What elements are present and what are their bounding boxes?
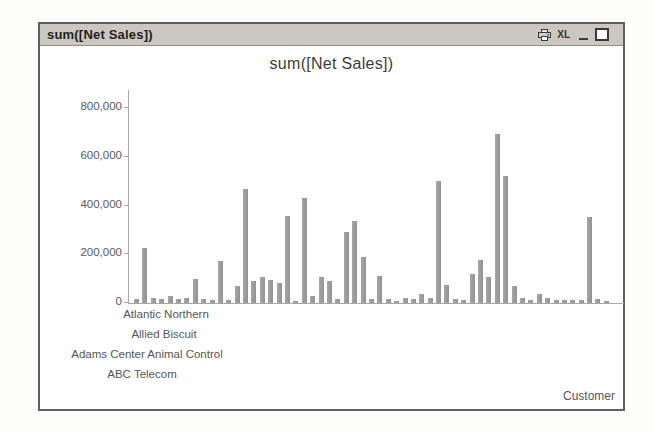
bar[interactable] <box>243 189 248 303</box>
bar[interactable] <box>461 300 466 303</box>
y-tick-label: 800,000 <box>62 100 122 112</box>
bar[interactable] <box>268 280 273 303</box>
print-icon[interactable] <box>537 28 551 42</box>
bar[interactable] <box>277 283 282 303</box>
excel-export-icon[interactable]: XL <box>556 28 571 42</box>
y-axis-line <box>128 90 129 303</box>
titlebar-icons: XL <box>537 28 609 42</box>
chart-area: sum([Net Sales]) 800,000600,000400,00020… <box>40 46 623 409</box>
bar[interactable] <box>520 298 525 303</box>
bar[interactable] <box>386 299 391 303</box>
bar[interactable] <box>436 181 441 304</box>
bar[interactable] <box>562 300 567 303</box>
bar[interactable] <box>151 298 156 303</box>
bar[interactable] <box>478 260 483 303</box>
bar[interactable] <box>319 277 324 303</box>
bar[interactable] <box>453 299 458 303</box>
bar[interactable] <box>210 300 215 303</box>
bar[interactable] <box>285 216 290 303</box>
bar[interactable] <box>486 277 491 303</box>
bar[interactable] <box>184 298 189 303</box>
bar[interactable] <box>419 294 424 303</box>
y-tick-mark <box>124 107 128 108</box>
x-tick-label-adams-center-animal-control[interactable]: Adams Center Animal Control <box>71 348 222 360</box>
bar[interactable] <box>344 232 349 303</box>
y-tick-mark <box>124 302 128 303</box>
bar[interactable] <box>528 300 533 303</box>
bar[interactable] <box>293 301 298 304</box>
x-tick-label-abc-telecom[interactable]: ABC Telecom <box>107 368 176 380</box>
bar[interactable] <box>503 176 508 303</box>
bar[interactable] <box>134 299 139 303</box>
window-title: sum([Net Sales]) <box>47 27 537 42</box>
bar[interactable] <box>142 248 147 303</box>
bar[interactable] <box>226 300 231 303</box>
bar[interactable] <box>335 299 340 303</box>
bar[interactable] <box>394 301 399 304</box>
bar[interactable] <box>159 299 164 303</box>
bar[interactable] <box>327 281 332 303</box>
bar[interactable] <box>260 277 265 303</box>
bar[interactable] <box>470 274 475 303</box>
y-tick-label: 200,000 <box>62 246 122 258</box>
y-tick-mark <box>124 205 128 206</box>
bar[interactable] <box>428 298 433 303</box>
bar[interactable] <box>176 299 181 303</box>
x-axis-line <box>128 303 624 304</box>
x-tick-label-atlantic-northern[interactable]: Atlantic Northern <box>123 308 209 320</box>
bar[interactable] <box>545 298 550 303</box>
bar[interactable] <box>352 221 357 303</box>
bar[interactable] <box>369 299 374 303</box>
y-tick-label: 400,000 <box>62 198 122 210</box>
bar[interactable] <box>302 198 307 303</box>
bars-plot <box>134 107 612 303</box>
minimize-icon[interactable] <box>576 28 590 42</box>
bar[interactable] <box>411 299 416 303</box>
y-tick-mark <box>124 253 128 254</box>
x-tick-label-allied-biscuit[interactable]: Allied Biscuit <box>131 328 196 340</box>
window-titlebar[interactable]: sum([Net Sales]) XL <box>40 24 623 46</box>
bar[interactable] <box>235 286 240 303</box>
bar[interactable] <box>403 298 408 303</box>
bar[interactable] <box>251 281 256 303</box>
bar[interactable] <box>579 300 584 303</box>
bar[interactable] <box>537 294 542 303</box>
bar[interactable] <box>595 299 600 303</box>
y-tick-label: 600,000 <box>62 149 122 161</box>
bar[interactable] <box>512 286 517 303</box>
x-axis-title: Customer <box>563 389 615 403</box>
bar[interactable] <box>570 300 575 303</box>
bar[interactable] <box>310 296 315 303</box>
bar[interactable] <box>377 276 382 303</box>
bar[interactable] <box>193 279 198 304</box>
bar[interactable] <box>587 217 592 303</box>
bar[interactable] <box>218 261 223 303</box>
chart-title: sum([Net Sales]) <box>40 55 623 73</box>
bar[interactable] <box>495 134 500 303</box>
bar[interactable] <box>361 257 366 304</box>
y-tick-label: 0 <box>62 295 122 307</box>
bar[interactable] <box>554 300 559 303</box>
bar[interactable] <box>604 301 609 303</box>
maximize-icon[interactable] <box>595 28 609 42</box>
y-tick-mark <box>124 156 128 157</box>
bar[interactable] <box>444 285 449 303</box>
bar[interactable] <box>201 299 206 303</box>
chart-window: sum([Net Sales]) XL sum([Net Sales]) 800… <box>38 22 625 411</box>
bar[interactable] <box>168 296 173 303</box>
